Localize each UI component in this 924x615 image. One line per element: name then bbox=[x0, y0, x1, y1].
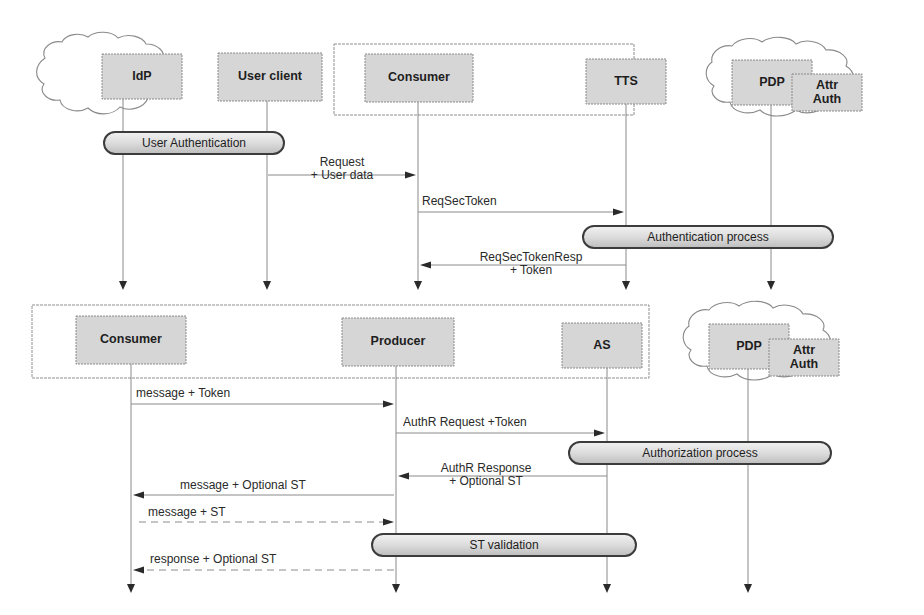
arrow-head-icon bbox=[133, 492, 144, 499]
message-label: message + Token bbox=[136, 386, 230, 400]
lifeline-arrow-icon bbox=[622, 281, 630, 290]
lifeline-tts bbox=[622, 104, 630, 290]
lifeline-user_client bbox=[263, 101, 271, 290]
lifeline-arrow-icon bbox=[119, 281, 127, 290]
message-arrow: response + Optional ST bbox=[133, 552, 394, 574]
entity-label: User client bbox=[238, 69, 303, 83]
process-label: ST validation bbox=[469, 538, 538, 552]
lifeline-as bbox=[603, 368, 611, 593]
process-label: Authorization process bbox=[642, 446, 757, 460]
entity-producer: Producer bbox=[342, 318, 454, 366]
entity-as: AS bbox=[562, 323, 642, 368]
message-label: AuthR Request +Token bbox=[403, 415, 527, 429]
lifeline-arrow-icon bbox=[744, 584, 752, 593]
entity-user_client: User client bbox=[218, 53, 322, 101]
message-label: AuthR Response bbox=[441, 461, 532, 475]
entity-label: Producer bbox=[371, 334, 426, 348]
entity-label: Auth bbox=[813, 92, 841, 106]
process-pill: ST validation bbox=[372, 534, 636, 556]
message-label: Request bbox=[320, 155, 365, 169]
message-arrow: message + Token bbox=[131, 386, 394, 408]
lifeline-arrow-icon bbox=[263, 281, 271, 290]
message-arrow: AuthR Request +Token bbox=[396, 415, 605, 437]
entity-idp: IdP bbox=[102, 54, 182, 99]
arrow-head-icon bbox=[133, 567, 144, 574]
message-label: ReqSecToken bbox=[422, 194, 497, 208]
lifeline-pdp bbox=[744, 369, 752, 593]
message-label: + Token bbox=[510, 263, 552, 277]
message-label: message + ST bbox=[148, 505, 226, 519]
entity-label: PDP bbox=[759, 75, 785, 89]
arrow-head-icon bbox=[405, 172, 416, 179]
message-label: message + Optional ST bbox=[180, 478, 306, 492]
message-label: + User data bbox=[311, 168, 374, 182]
entity-attr_auth: AttrAuth bbox=[792, 74, 862, 111]
message-arrow: Request+ User data bbox=[268, 155, 416, 182]
entity-label: Attr bbox=[793, 343, 815, 357]
process-label: User Authentication bbox=[142, 136, 246, 150]
entity-label: AS bbox=[593, 338, 610, 352]
lifeline-arrow-icon bbox=[414, 281, 422, 290]
entity-attr_auth: AttrAuth bbox=[769, 339, 839, 376]
entity-consumer: Consumer bbox=[365, 54, 473, 102]
entity-label: Attr bbox=[816, 78, 838, 92]
lifeline-arrow-icon bbox=[392, 584, 400, 593]
arrow-head-icon bbox=[613, 209, 624, 216]
arrow-head-icon bbox=[383, 401, 394, 408]
entity-label: Auth bbox=[790, 357, 818, 371]
arrow-head-icon bbox=[594, 430, 605, 437]
arrow-head-icon bbox=[398, 473, 409, 480]
message-arrow: message + Optional ST bbox=[133, 478, 394, 499]
entity-label: Consumer bbox=[388, 70, 450, 84]
lifeline-consumer bbox=[414, 102, 422, 290]
lifeline-pdp bbox=[767, 105, 775, 290]
message-arrow: ReqSecToken bbox=[418, 194, 624, 216]
message-label: response + Optional ST bbox=[150, 552, 277, 566]
process-pill: User Authentication bbox=[104, 132, 284, 154]
lifeline-idp bbox=[119, 99, 127, 290]
entity-label: IdP bbox=[132, 69, 151, 83]
arrow-head-icon bbox=[420, 262, 431, 269]
lifeline-arrow-icon bbox=[767, 281, 775, 290]
process-pill: Authentication process bbox=[583, 226, 833, 248]
sequence-diagram: Request+ User dataReqSecTokenReqSecToken… bbox=[0, 0, 924, 615]
entity-label: Consumer bbox=[100, 332, 162, 346]
lifeline-producer bbox=[392, 366, 400, 593]
entity-label: PDP bbox=[736, 339, 762, 353]
message-label: + Optional ST bbox=[449, 474, 523, 488]
entity-consumer: Consumer bbox=[76, 316, 186, 364]
arrow-head-icon bbox=[383, 519, 394, 526]
message-label: ReqSecTokenResp bbox=[480, 250, 583, 264]
message-arrow: message + ST bbox=[139, 505, 394, 526]
entity-label: TTS bbox=[614, 74, 638, 88]
message-arrow: ReqSecTokenResp+ Token bbox=[420, 250, 626, 277]
lifeline-arrow-icon bbox=[603, 584, 611, 593]
process-pill: Authorization process bbox=[569, 442, 831, 464]
entities: IdPUser clientConsumerTTSPDPAttrAuthCons… bbox=[76, 53, 862, 376]
entity-tts: TTS bbox=[586, 59, 666, 104]
lifeline-arrow-icon bbox=[127, 584, 135, 593]
message-arrow: AuthR Response+ Optional ST bbox=[398, 461, 607, 488]
process-label: Authentication process bbox=[647, 230, 768, 244]
lifeline-consumer bbox=[127, 364, 135, 593]
